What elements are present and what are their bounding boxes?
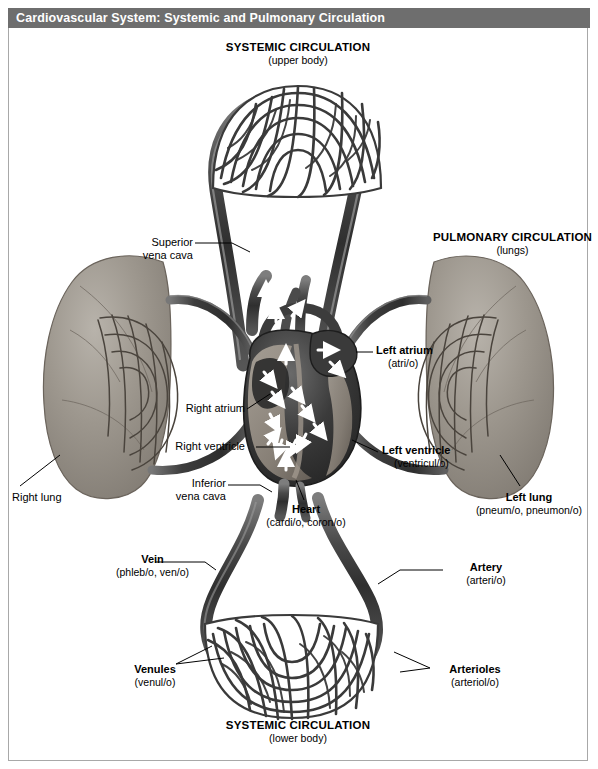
heart-detail: (cardi/o, coron/o): [238, 516, 374, 529]
label-right-ventricle: Right ventricle: [136, 440, 245, 453]
venules-detail: (venul/o): [112, 676, 198, 689]
label-right-lung: Right lung: [12, 491, 102, 504]
right-lung: [43, 256, 252, 499]
label-arterioles: Arterioles (arteriol/o): [425, 663, 525, 689]
left-ventricle-detail: (ventricul/o): [382, 457, 512, 470]
systemic-upper-detail: (upper body): [193, 54, 403, 67]
label-venules: Venules (venul/o): [112, 663, 198, 689]
inferior-vena-cava-name: Inferior: [118, 477, 226, 490]
cardiovascular-diagram: [0, 0, 598, 769]
label-heart: Heart (cardi/o, coron/o): [238, 503, 374, 529]
right-atrium-name: Right atrium: [142, 402, 245, 415]
left-atrium-detail: (atri/o): [376, 357, 496, 370]
lower-body-capillary-bed: [205, 498, 378, 719]
label-pulmonary-circulation: PULMONARY CIRCULATION (lungs): [430, 231, 595, 257]
artery-name: Artery: [444, 561, 528, 574]
label-right-atrium: Right atrium: [142, 402, 245, 415]
inferior-vena-cava-detail: vena cava: [118, 490, 226, 503]
label-vein: Vein (phleb/o, ven/o): [96, 553, 209, 579]
venules-name: Venules: [112, 663, 198, 676]
superior-vena-cava-detail: vena cava: [85, 249, 193, 262]
right-ventricle-name: Right ventricle: [136, 440, 245, 453]
label-systemic-circulation-lower: SYSTEMIC CIRCULATION (lower body): [193, 719, 403, 745]
pulmonary-detail: (lungs): [430, 244, 595, 257]
arterioles-detail: (arteriol/o): [425, 676, 525, 689]
superior-vena-cava-name: Superior: [85, 236, 193, 249]
left-lung-detail: (pneum/o, pneumon/o): [463, 504, 595, 517]
label-superior-vena-cava: Superior vena cava: [85, 236, 193, 262]
label-left-ventricle: Left ventricle (ventricul/o): [382, 444, 512, 470]
left-lung-name: Left lung: [463, 491, 595, 504]
artery-detail: (arteri/o): [444, 574, 528, 587]
systemic-upper-name: SYSTEMIC CIRCULATION: [193, 41, 403, 54]
label-inferior-vena-cava: Inferior vena cava: [118, 477, 226, 503]
systemic-lower-detail: (lower body): [193, 732, 403, 745]
systemic-lower-name: SYSTEMIC CIRCULATION: [193, 719, 403, 732]
figure-page: Cardiovascular System: Systemic and Pulm…: [0, 0, 598, 769]
right-lung-name: Right lung: [12, 491, 102, 504]
pulmonary-name: PULMONARY CIRCULATION: [430, 231, 595, 244]
label-systemic-circulation-upper: SYSTEMIC CIRCULATION (upper body): [193, 41, 403, 67]
label-left-lung: Left lung (pneum/o, pneumon/o): [463, 491, 595, 517]
vein-name: Vein: [96, 553, 209, 566]
left-atrium-name: Left atrium: [376, 344, 496, 357]
left-ventricle-name: Left ventricle: [382, 444, 512, 457]
label-artery: Artery (arteri/o): [444, 561, 528, 587]
heart: [244, 276, 361, 518]
heart-name: Heart: [238, 503, 374, 516]
arterioles-name: Arterioles: [425, 663, 525, 676]
vein-detail: (phleb/o, ven/o): [96, 566, 209, 579]
label-left-atrium: Left atrium (atri/o): [376, 344, 496, 370]
